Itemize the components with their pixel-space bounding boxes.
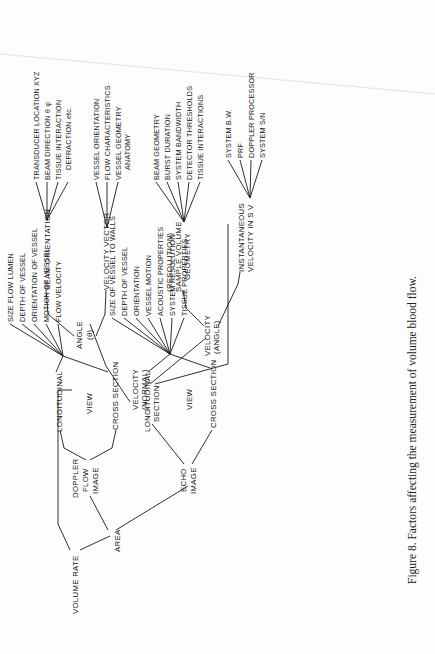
- node-doppler-flow-image: DOPPLER FLOW IMAGE: [71, 459, 100, 498]
- doppler-longitudinal-label: LONGITUDINAL: [55, 370, 64, 432]
- doppler-line1: DOPPLER: [71, 459, 80, 498]
- leaf-depth-of-vessel: DEPTH OF VESSEL: [18, 253, 27, 322]
- leaf-detector-thresholds: DETECTOR THRESHOLDS: [185, 86, 194, 180]
- leaf-flow-velocity: FLOW VELOCITY: [54, 261, 63, 322]
- edge-echo-fan-to-cross: [170, 354, 210, 368]
- doppler-line3: IMAGE: [91, 467, 100, 494]
- doppler-view-label: VIEW: [85, 393, 94, 414]
- edge-velangle-to-instantaneous: [218, 272, 240, 326]
- velocity-angle-line2: (ANGLE): [212, 320, 221, 354]
- velocity-angle-line1: VELOCITY: [203, 315, 212, 356]
- angle-line2: (θ): [85, 329, 94, 340]
- edge-area-to-echo: [116, 486, 188, 530]
- edge-volume-to-area: [80, 536, 110, 550]
- sample-volume-leaves: BEAM GEOMETRY BURST DURATION SYSTEM BAND…: [152, 86, 205, 180]
- leaf-prf: PRF: [236, 143, 245, 158]
- node-velocity-angle: VELOCITY (ANGLE): [203, 315, 221, 356]
- leaf-system-bandwidth: SYSTEM BANDWIDTH: [174, 102, 183, 180]
- rotated-figure: VOLUME RATE AREA VELOCITY (NORMAL): [0, 0, 435, 654]
- edge-echo-long-to-fan: [148, 354, 170, 372]
- leaf-flow-characteristics: FLOW CHARACTERISTICS: [103, 85, 112, 180]
- node-volume-rate: VOLUME RATE: [71, 555, 80, 614]
- leaf-doppler-processor: DOPPLER PROCESSOR: [247, 72, 256, 158]
- leaf-size-flow-lumen: SIZE FLOW LUMEN: [6, 253, 15, 322]
- edge-echo-to-longitudinal: [152, 424, 184, 464]
- edge-angle-to-vector: [96, 290, 106, 336]
- leaf-orientation-of-vessel: ORIENTATION OF VESSEL: [30, 228, 39, 322]
- leaf-orientation: ORIENTATION: [132, 266, 141, 316]
- leaf-vessel-geometry: VESSEL GEOMETRY: [114, 106, 123, 180]
- velocity-normal-line1: VELOCITY: [131, 369, 140, 410]
- leaf-system-bw: SYSTEM B.W.: [224, 109, 233, 158]
- instantaneous-line2: VELOCITY IN S V: [246, 204, 255, 272]
- edge-doppler-to-cross: [90, 430, 116, 460]
- echo-longitudinal-line1: LONGITUDINAL: [143, 370, 152, 432]
- doppler-longitudinal-fan: [10, 324, 63, 356]
- leaf-anatomy: ANATOMY: [123, 134, 132, 170]
- leaf-burst-duration: BURST DURATION: [163, 114, 172, 180]
- echo-longitudinal-fan: [112, 318, 184, 354]
- leaf-tissue-interaction: TISSUE INTERACTION: [54, 100, 63, 180]
- scan-artifact: [0, 54, 435, 94]
- edge-area-to-doppler: [90, 496, 108, 530]
- beam-orientation-fan: [36, 182, 68, 220]
- leaf-system-resolution: SYSTEM RESOLUTION: [168, 234, 177, 316]
- leaf-beam-geometry: BEAM GEOMETRY: [152, 114, 161, 180]
- edge-echo-to-cross: [192, 430, 212, 464]
- leaf-size-of-vessel-to-walls: SIZE OF VESSEL TO WALLS: [108, 216, 117, 316]
- volume-flow-factor-tree: VOLUME RATE AREA VELOCITY (NORMAL): [0, 0, 435, 654]
- node-instantaneous-velocity: INSTANTANEOUS VELOCITY IN S V: [237, 203, 255, 272]
- leaf-acoustic-properties: ACOUSTIC PROPERTIES: [156, 227, 165, 316]
- instantaneous-leaves: SYSTEM B.W. PRF DOPPLER PROCESSOR SYSTEM…: [224, 72, 267, 158]
- leaf-vessel-orientation: VESSEL ORIENTATION: [92, 99, 101, 180]
- leaf-tissue-properties: TISSUE PROPERTIES: [180, 238, 189, 316]
- echo-cross-section-label: CROSS SECTION: [209, 360, 218, 428]
- figure-caption: Figure 8. Factors affecting the measurem…: [406, 276, 419, 584]
- echo-line2: IMAGE: [189, 467, 198, 494]
- instantaneous-line1: INSTANTANEOUS: [237, 203, 246, 272]
- velocity-vector-leaves: VESSEL ORIENTATION FLOW CHARACTERISTICS …: [92, 85, 132, 180]
- echo-longitudinal-line2: SECTION: [152, 385, 161, 422]
- doppler-cross-section-label: CROSS SECTION: [111, 362, 120, 430]
- leaf-echo-depth-of-vessel: DEPTH OF VESSEL: [120, 247, 129, 316]
- echo-view-label: VIEW: [185, 389, 194, 410]
- leaf-defraction: DEFRACTION etc.: [64, 107, 73, 170]
- echo-line1: ECHO: [179, 468, 188, 492]
- node-angle: ANGLE (θ): [75, 321, 94, 349]
- leaf-vessel-motion: VESSEL MOTION: [144, 255, 153, 316]
- doppler-longitudinal-leaves: SIZE FLOW LUMEN DEPTH OF VESSEL ORIENTAT…: [6, 228, 63, 322]
- area-label: AREA: [113, 529, 122, 552]
- volume-rate-label: VOLUME RATE: [71, 555, 80, 614]
- scanned-page: VOLUME RATE AREA VELOCITY (NORMAL): [0, 0, 435, 654]
- leaf-tissue-interactions: TISSUE INTERACTIONS: [196, 95, 205, 180]
- instantaneous-fan: [228, 160, 262, 198]
- leaf-system-sn: SYSTEM S/N: [258, 112, 267, 158]
- leaf-transducer-location: TRANSDUCER LOCATION XYZ: [32, 71, 41, 180]
- beam-orientation-leaves: TRANSDUCER LOCATION XYZ BEAM DIRECTION θ…: [32, 71, 73, 180]
- edge-doppler-to-longitudinal: [60, 430, 86, 460]
- angle-line1: ANGLE: [75, 321, 84, 349]
- leaf-motion-of-vessel: MOTION OF VESSEL: [42, 248, 51, 322]
- leaf-beam-direction: BEAM DIRECTION θ φ: [43, 102, 52, 180]
- node-echo-image: ECHO IMAGE: [179, 467, 198, 494]
- doppler-line2: FLOW: [81, 468, 90, 492]
- edge-longitudinal-to-fan: [56, 356, 63, 372]
- edge-fan-to-cross: [63, 356, 108, 372]
- node-area: AREA: [113, 529, 122, 552]
- sample-volume-fan: [156, 182, 200, 222]
